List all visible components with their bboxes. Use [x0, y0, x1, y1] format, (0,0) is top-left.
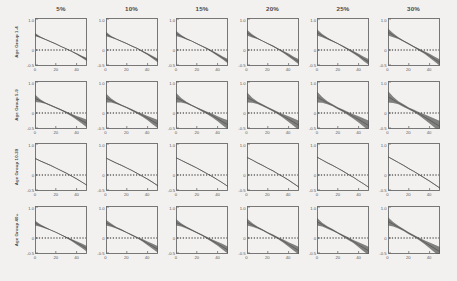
- y-tick-label: -0.5: [236, 188, 246, 193]
- panel-r2-c5: [388, 143, 440, 191]
- y-tick-label: 1.0: [95, 143, 105, 148]
- x-tick-label: 0: [316, 130, 318, 135]
- x-tick-label: 40: [286, 255, 291, 260]
- y-tick-label: 1.0: [165, 18, 175, 23]
- x-tick-label: 20: [265, 67, 270, 72]
- panel-r0-c3: [247, 18, 299, 66]
- y-tick-label: 0: [236, 235, 246, 240]
- x-tick-label: 40: [145, 67, 150, 72]
- y-tick-label: 0: [95, 48, 105, 53]
- y-tick-label: 0: [306, 235, 316, 240]
- x-tick-label: 40: [215, 67, 220, 72]
- x-tick-label: 40: [356, 192, 361, 197]
- y-tick-label: -0.5: [165, 63, 175, 68]
- y-tick-label: -0.5: [377, 188, 387, 193]
- x-tick-label: 20: [194, 192, 199, 197]
- x-tick-label: 40: [74, 67, 79, 72]
- x-tick-label: 20: [335, 67, 340, 72]
- x-tick-label: 0: [316, 192, 318, 197]
- y-tick-label: -0.5: [377, 125, 387, 130]
- y-tick-label: 1.0: [165, 80, 175, 85]
- y-tick-label: 0: [95, 110, 105, 115]
- panel-r3-c5: [388, 206, 440, 254]
- y-tick-label: 0: [236, 110, 246, 115]
- y-tick-label: 1.0: [377, 18, 387, 23]
- x-tick-label: 40: [356, 67, 361, 72]
- y-tick-label: 0: [306, 173, 316, 178]
- x-tick-label: 0: [245, 255, 247, 260]
- y-tick-label: 1.0: [95, 205, 105, 210]
- panel-r2-c4: [317, 143, 369, 191]
- y-tick-label: -0.5: [306, 250, 316, 255]
- x-tick-label: 20: [53, 130, 58, 135]
- panel-r1-c1: [106, 81, 158, 129]
- y-tick-label: 1.0: [306, 80, 316, 85]
- y-tick-label: -0.5: [236, 125, 246, 130]
- x-tick-label: 20: [194, 255, 199, 260]
- column-header-20pct: 20%: [266, 5, 279, 12]
- panel-r0-c4: [317, 18, 369, 66]
- panel-r3-c0: [35, 206, 87, 254]
- y-tick-label: 0: [236, 48, 246, 53]
- x-tick-label: 20: [124, 67, 129, 72]
- x-tick-label: 0: [104, 67, 106, 72]
- x-tick-label: 0: [245, 192, 247, 197]
- x-tick-label: 20: [335, 130, 340, 135]
- x-tick-label: 20: [194, 130, 199, 135]
- x-tick-label: 0: [34, 255, 36, 260]
- panel-r0-c2: [176, 18, 228, 66]
- y-tick-label: -0.5: [24, 63, 34, 68]
- y-tick-label: 0: [165, 48, 175, 53]
- row-label-age-group-1-4: Age Group 1-4: [14, 26, 19, 58]
- y-tick-label: 0: [95, 235, 105, 240]
- x-tick-label: 40: [145, 130, 150, 135]
- y-tick-label: 1.0: [24, 143, 34, 148]
- x-tick-label: 20: [194, 67, 199, 72]
- y-tick-label: -0.5: [377, 250, 387, 255]
- x-tick-label: 40: [145, 255, 150, 260]
- x-tick-label: 40: [356, 130, 361, 135]
- x-tick-label: 20: [265, 192, 270, 197]
- y-tick-label: 0: [165, 235, 175, 240]
- x-tick-label: 0: [386, 130, 388, 135]
- x-tick-label: 40: [356, 255, 361, 260]
- x-tick-label: 40: [427, 255, 432, 260]
- panel-r2-c2: [176, 143, 228, 191]
- x-tick-label: 20: [406, 67, 411, 72]
- y-tick-label: -0.5: [236, 250, 246, 255]
- y-tick-label: 1.0: [95, 80, 105, 85]
- x-tick-label: 0: [34, 67, 36, 72]
- panel-r0-c1: [106, 18, 158, 66]
- y-tick-label: 0: [377, 173, 387, 178]
- x-tick-label: 20: [53, 192, 58, 197]
- y-tick-label: 1.0: [377, 205, 387, 210]
- panel-r0-c5: [388, 18, 440, 66]
- y-tick-label: -0.5: [236, 63, 246, 68]
- y-tick-label: -0.5: [306, 125, 316, 130]
- panel-r1-c2: [176, 81, 228, 129]
- x-tick-label: 40: [215, 192, 220, 197]
- y-tick-label: 0: [236, 173, 246, 178]
- x-tick-label: 40: [286, 130, 291, 135]
- x-tick-label: 20: [124, 255, 129, 260]
- y-tick-label: 1.0: [24, 18, 34, 23]
- x-tick-label: 20: [406, 192, 411, 197]
- y-tick-label: 0: [24, 110, 34, 115]
- x-tick-label: 0: [175, 130, 177, 135]
- x-tick-label: 0: [386, 255, 388, 260]
- x-tick-label: 20: [335, 192, 340, 197]
- column-header-10pct: 10%: [125, 5, 138, 12]
- y-tick-label: -0.5: [95, 250, 105, 255]
- y-tick-label: 0: [24, 48, 34, 53]
- y-tick-label: 0: [24, 173, 34, 178]
- y-tick-label: 1.0: [377, 80, 387, 85]
- y-tick-label: 1.0: [95, 18, 105, 23]
- x-tick-label: 0: [34, 130, 36, 135]
- x-tick-label: 20: [265, 130, 270, 135]
- column-header-5pct: 5%: [56, 5, 65, 12]
- y-tick-label: -0.5: [24, 250, 34, 255]
- y-tick-label: 1.0: [236, 205, 246, 210]
- y-tick-label: 0: [165, 173, 175, 178]
- y-tick-label: -0.5: [95, 63, 105, 68]
- x-tick-label: 0: [175, 67, 177, 72]
